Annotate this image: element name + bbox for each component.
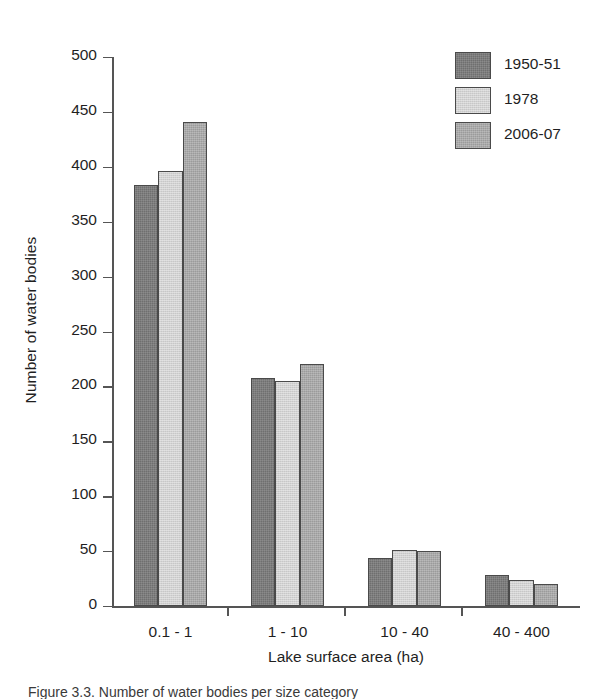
y-axis-tick-label: 200 [37,375,97,393]
y-axis-tick: 500 [103,57,112,58]
x-axis-category-label: 0.1 - 1 [149,623,193,641]
y-axis-tick-label: 150 [37,430,97,448]
legend-label: 2006-07 [504,125,561,143]
y-axis-tick-label: 500 [37,46,97,64]
y-axis-tick-label: 0 [37,595,97,613]
bar-1978-40 - 400 [509,580,534,606]
bar-1950-51-10 - 40 [368,558,393,606]
y-axis-tick: 300 [103,277,112,278]
y-axis-tick-label: 100 [37,485,97,503]
figure-caption-text: Figure 3.3. Number of water bodies per s… [28,684,588,699]
y-axis-tick: 250 [103,332,112,333]
y-axis-tick: 450 [103,112,112,113]
figure-bar-chart: Number of water bodies 05010015020025030… [0,0,612,699]
bar-2006-07-40 - 400 [534,584,559,606]
legend-item: 1978 [455,87,605,117]
x-axis-category-label: 40 - 400 [493,623,550,641]
legend-item: 2006-07 [455,122,605,152]
bar-1950-51-1 - 10 [251,378,276,606]
y-axis-line [112,57,114,606]
y-axis-tick-label: 50 [37,540,97,558]
legend-item: 1950-51 [455,52,605,82]
bar-1950-51-0.1 - 1 [134,185,159,606]
legend-label: 1978 [504,90,538,108]
legend-swatch-1978 [455,87,491,114]
x-axis-tick [227,606,228,616]
y-axis-tick: 50 [103,551,112,552]
chart-legend: 1950-5119782006-07 [455,52,605,157]
y-axis-tick: 350 [103,222,112,223]
legend-swatch-2006-07 [455,122,491,149]
y-axis-tick: 100 [103,496,112,497]
y-axis-tick-label: 300 [37,266,97,284]
y-axis-tick-label: 250 [37,321,97,339]
x-axis-category-label: 1 - 10 [268,623,308,641]
legend-label: 1950-51 [504,55,561,73]
x-axis-category-label: 10 - 40 [380,623,428,641]
x-axis-title: Lake surface area (ha) [112,648,580,666]
y-axis-tick-label: 400 [37,156,97,174]
bar-1978-10 - 40 [392,550,417,606]
y-axis-tick: 200 [103,386,112,387]
bar-1978-0.1 - 1 [158,171,183,606]
y-axis-tick: 0 [103,606,112,607]
x-axis-tick [344,606,345,616]
x-axis-tick [461,606,462,616]
y-axis-tick-label: 350 [37,211,97,229]
y-axis-tick: 400 [103,167,112,168]
bar-2006-07-1 - 10 [300,364,325,606]
bar-2006-07-10 - 40 [417,551,442,606]
x-axis-line [112,606,580,608]
figure-caption-clipped: Figure 3.3. Number of water bodies per s… [28,684,588,699]
bar-1950-51-40 - 400 [485,575,510,606]
y-axis-tick: 150 [103,441,112,442]
bar-1978-1 - 10 [275,381,300,606]
y-axis-tick-label: 450 [37,101,97,119]
bar-2006-07-0.1 - 1 [183,122,208,606]
legend-swatch-1950-51 [455,52,491,79]
